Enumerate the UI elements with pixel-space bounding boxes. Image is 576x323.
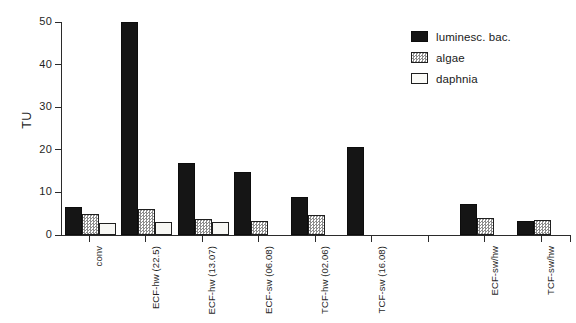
legend-item-algae: algae: [411, 47, 571, 68]
x-tick-label: TCF-sw/hw: [545, 246, 556, 295]
x-tick-mark: [89, 236, 90, 242]
y-tick-mark: [55, 64, 61, 65]
x-tick-label: TCF-hw (02.06): [319, 246, 330, 314]
y-tick-mark: [55, 192, 61, 193]
x-tick-mark: [315, 236, 316, 242]
chart-legend: luminesc. bac. algae daphnia: [411, 26, 571, 89]
x-axis-end-tick: [570, 236, 571, 242]
bar-luminesc-bac: [460, 204, 477, 235]
bar-luminesc-bac: [347, 147, 364, 235]
bar-luminesc-bac: [178, 163, 195, 235]
bar-luminesc-bac: [65, 207, 82, 235]
x-tick-mark: [202, 236, 203, 242]
bar-daphnia: [212, 222, 229, 235]
x-tick-label: ECF-hw (13.07): [206, 246, 217, 314]
x-tick-label: conv: [93, 246, 104, 266]
bar-algae: [251, 221, 268, 235]
y-tick-label: 20: [14, 144, 52, 155]
x-tick-mark: [258, 236, 259, 242]
x-tick-mark: [371, 236, 372, 242]
bar-luminesc-bac: [121, 22, 138, 235]
bar-luminesc-bac: [234, 172, 251, 235]
bar-daphnia: [99, 223, 116, 235]
filled-black-swatch-icon: [411, 31, 428, 42]
y-tick-label: 50: [14, 16, 52, 27]
bar-algae: [477, 218, 494, 235]
legend-label-algae: algae: [436, 52, 465, 64]
legend-item-daphnia: daphnia: [411, 68, 571, 89]
y-tick-mark: [55, 235, 61, 236]
y-tick-label: 40: [14, 59, 52, 70]
legend-label-daphnia: daphnia: [436, 73, 478, 85]
x-tick-mark: [145, 236, 146, 242]
legend-label-luminesc-bac: luminesc. bac.: [436, 31, 511, 43]
x-tick-mark: [428, 236, 429, 242]
y-tick-label: 10: [14, 186, 52, 197]
x-tick-label: ECF-sw/hw: [489, 246, 500, 295]
bar-luminesc-bac: [517, 221, 534, 235]
bar-algae: [308, 215, 325, 235]
y-axis-line: [61, 22, 62, 235]
y-axis-title-text: TU: [20, 111, 34, 129]
x-axis-line: [61, 235, 571, 236]
bar-daphnia: [155, 222, 172, 235]
bar-algae: [82, 214, 99, 235]
hatched-gray-swatch-icon: [411, 52, 428, 63]
y-tick-mark: [55, 149, 61, 150]
y-axis-title: TU: [14, 110, 40, 128]
legend-item-luminesc-bac: luminesc. bac.: [411, 26, 571, 47]
x-tick-label: ECF-hw (22.5): [150, 246, 161, 309]
y-tick-mark: [55, 107, 61, 108]
y-tick-label: 30: [14, 101, 52, 112]
bar-chart: TU 01020304050 convECF-hw (22.5)ECF-hw (…: [0, 0, 576, 323]
bar-luminesc-bac: [291, 197, 308, 235]
x-tick-label: ECF-sw (06.08): [263, 246, 274, 314]
y-tick-mark: [55, 22, 61, 23]
bar-algae: [534, 220, 551, 235]
bar-algae: [138, 209, 155, 235]
empty-white-swatch-icon: [411, 73, 428, 84]
bar-algae: [195, 219, 212, 235]
x-tick-mark: [484, 236, 485, 242]
x-tick-mark: [541, 236, 542, 242]
x-tick-label: TCF-sw (16.08): [376, 246, 387, 313]
y-tick-label: 0: [14, 229, 52, 240]
plot-area: TU 01020304050 convECF-hw (22.5)ECF-hw (…: [0, 0, 576, 323]
